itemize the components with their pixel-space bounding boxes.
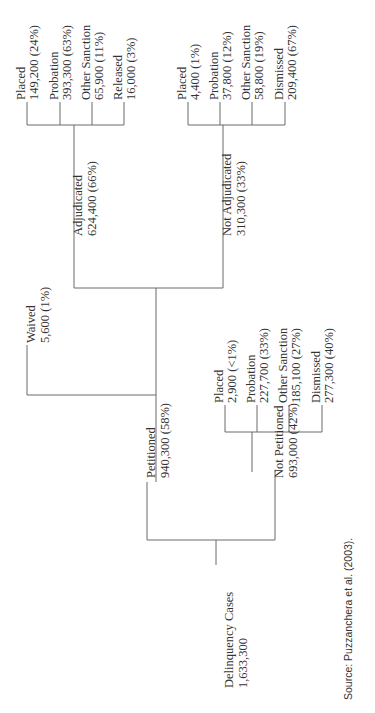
not-adjudicated-children: Placed 4,400 (1%) Probation 37,800 (12%)… xyxy=(175,24,299,100)
node-label: Other Sanction xyxy=(276,327,290,403)
node-adj-other-sanction: Other Sanction 65,900 (11%) xyxy=(79,24,106,100)
node-adj-released: Released 16,000 (3%) xyxy=(111,38,138,101)
node-value: 58,800 (19%) xyxy=(252,31,266,100)
node-nadj-probation: Probation 37,800 (12%) xyxy=(207,31,234,100)
node-value: 393,300 (63%) xyxy=(60,25,74,100)
node-np-placed: Placed 2,900 (<1%) xyxy=(212,340,239,403)
node-waived: Waived 5,600 (1%) xyxy=(24,287,52,343)
node-value: 624,400 (66%) xyxy=(85,161,99,236)
node-value: 2,900 (<1%) xyxy=(225,340,239,403)
node-label: Probation xyxy=(47,51,61,100)
node-np-probation: Probation 227,700 (33%) xyxy=(244,328,271,403)
node-label: Other Sanction xyxy=(239,24,253,100)
node-nadj-placed: Placed 4,400 (1%) xyxy=(175,44,202,100)
node-label: Not Adjudicated xyxy=(220,153,234,236)
node-value: 693,000 (42%) xyxy=(286,403,300,478)
node-label: Delinquency Cases xyxy=(222,592,236,688)
node-value: 65,900 (11%) xyxy=(92,32,106,100)
adjudicated-children: Placed 149,200 (24%) Probation 393,300 (… xyxy=(14,24,138,100)
delinquency-case-flow-diagram: Delinquency Cases 1,633,300 Petitioned 9… xyxy=(0,0,375,713)
not-petitioned-children: Placed 2,900 (<1%) Probation 227,700 (33… xyxy=(212,327,336,403)
node-value: 5,600 (1%) xyxy=(38,287,52,343)
node-value: 310,300 (33%) xyxy=(234,161,248,236)
node-value: 185,100 (27%) xyxy=(289,328,303,403)
node-nadj-dismissed: Dismissed 209,400 (67%) xyxy=(272,25,299,100)
node-label: Adjudicated xyxy=(71,174,85,236)
node-value: 16,000 (3%) xyxy=(124,38,138,101)
node-adj-placed: Placed 149,200 (24%) xyxy=(14,25,41,100)
node-adj-probation: Probation 393,300 (63%) xyxy=(47,25,74,100)
node-label: Waived xyxy=(24,304,38,343)
node-not-adjudicated: Not Adjudicated 310,300 (33%) xyxy=(220,153,248,236)
node-value: 149,200 (24%) xyxy=(27,25,41,100)
node-label: Not Petitioned xyxy=(272,405,286,478)
node-petitioned: Petitioned 940,300 (58%) xyxy=(144,403,172,478)
node-label: Placed xyxy=(14,66,28,100)
node-value: 37,800 (12%) xyxy=(220,31,234,100)
node-not-petitioned: Not Petitioned 693,000 (42%) xyxy=(272,403,300,478)
node-value: 209,400 (67%) xyxy=(285,25,299,100)
source-citation: Source: Puzzanchera et al. (2003). xyxy=(342,538,354,700)
node-value: 940,300 (58%) xyxy=(158,403,172,478)
node-delinquency-cases: Delinquency Cases 1,633,300 xyxy=(222,592,250,688)
node-label: Probation xyxy=(244,354,258,403)
node-label: Placed xyxy=(212,369,226,403)
node-np-other-sanction: Other Sanction 185,100 (27%) xyxy=(276,327,303,403)
node-value: 1,633,300 xyxy=(236,638,250,688)
node-label: Petitioned xyxy=(144,427,158,478)
node-label: Released xyxy=(111,54,125,100)
node-value: 4,400 (1%) xyxy=(188,44,202,100)
node-label: Placed xyxy=(175,66,189,100)
node-adjudicated: Adjudicated 624,400 (66%) xyxy=(71,161,99,236)
node-nadj-other-sanction: Other Sanction 58,800 (19%) xyxy=(239,24,266,100)
source-note: Source: Puzzanchera et al. (2003). xyxy=(342,538,354,700)
node-value: 277,300 (40%) xyxy=(322,328,336,403)
node-value: 227,700 (33%) xyxy=(257,328,271,403)
node-label: Dismissed xyxy=(309,350,323,403)
node-label: Probation xyxy=(207,51,221,100)
node-label: Dismissed xyxy=(272,47,286,100)
node-label: Other Sanction xyxy=(79,24,93,100)
node-np-dismissed: Dismissed 277,300 (40%) xyxy=(309,328,336,403)
